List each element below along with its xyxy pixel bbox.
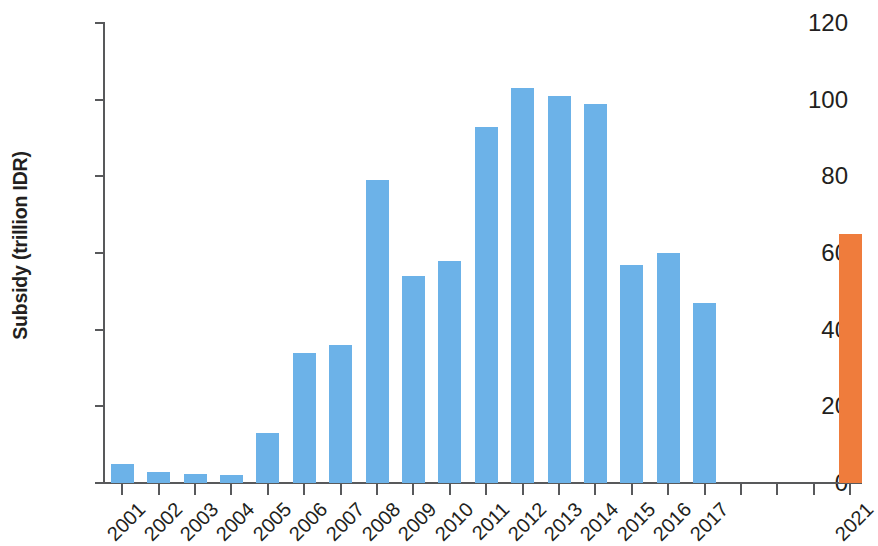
plot-area xyxy=(104,23,862,483)
x-tick-mark xyxy=(631,484,633,495)
x-tick-mark xyxy=(340,484,342,495)
bar xyxy=(839,234,862,483)
bar xyxy=(220,475,243,483)
x-tick-mark xyxy=(376,484,378,495)
bar xyxy=(402,276,425,483)
bar xyxy=(184,474,207,483)
bar xyxy=(584,104,607,484)
x-tick-mark xyxy=(776,484,778,495)
x-tick-mark xyxy=(485,484,487,495)
x-tick-mark xyxy=(303,484,305,495)
y-axis-title-label: Subsidy (trillion IDR) xyxy=(9,151,32,339)
bar xyxy=(329,345,352,483)
x-tick-mark xyxy=(522,484,524,495)
x-tick-mark xyxy=(558,484,560,495)
bar xyxy=(548,96,571,483)
bar xyxy=(147,472,170,484)
bar xyxy=(620,265,643,484)
x-tick-mark xyxy=(267,484,269,495)
x-tick-mark xyxy=(704,484,706,495)
bar xyxy=(111,464,134,483)
x-tick-mark xyxy=(740,484,742,495)
x-tick-mark xyxy=(158,484,160,495)
bar xyxy=(657,253,680,483)
bar xyxy=(693,303,716,483)
x-tick-mark xyxy=(594,484,596,495)
bar xyxy=(366,180,389,483)
x-tick-mark xyxy=(412,484,414,495)
y-axis-title: Subsidy (trillion IDR) xyxy=(0,0,40,490)
bar xyxy=(256,433,279,483)
bar xyxy=(293,353,316,483)
x-tick-label: 2021 xyxy=(791,498,878,546)
x-tick-mark xyxy=(813,484,815,495)
bar xyxy=(475,127,498,484)
x-tick-mark xyxy=(449,484,451,495)
bar xyxy=(438,261,461,483)
x-tick-mark xyxy=(849,484,851,495)
x-tick-mark xyxy=(194,484,196,495)
x-tick-mark xyxy=(230,484,232,495)
x-tick-mark xyxy=(667,484,669,495)
x-tick-mark xyxy=(121,484,123,495)
bar xyxy=(511,88,534,483)
